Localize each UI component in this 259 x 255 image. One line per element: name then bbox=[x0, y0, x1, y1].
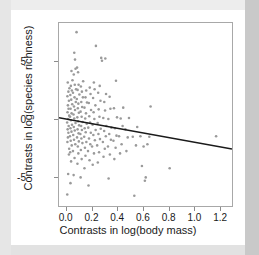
data-point bbox=[100, 57, 103, 60]
data-point bbox=[83, 127, 86, 130]
x-tick-mark bbox=[92, 207, 93, 211]
data-point bbox=[109, 153, 112, 156]
data-point bbox=[73, 96, 76, 99]
data-point bbox=[87, 184, 90, 187]
data-point bbox=[85, 141, 88, 144]
data-point bbox=[113, 158, 116, 161]
data-point bbox=[146, 143, 149, 146]
data-point bbox=[81, 142, 84, 145]
data-point bbox=[88, 159, 91, 162]
x-tick-label: 1.2 bbox=[213, 212, 227, 223]
data-points-group bbox=[66, 31, 218, 197]
data-point bbox=[66, 141, 69, 144]
figure-screenshot: 0.00.20.40.60.81.01.2 50-5 Contrasts in … bbox=[0, 0, 259, 255]
data-point bbox=[77, 145, 80, 148]
data-point bbox=[115, 134, 118, 137]
data-point bbox=[120, 143, 123, 146]
data-point bbox=[69, 115, 72, 118]
data-point bbox=[103, 130, 106, 133]
data-point bbox=[80, 125, 83, 128]
data-point bbox=[72, 73, 75, 76]
data-point bbox=[119, 152, 122, 155]
data-point bbox=[67, 125, 70, 128]
data-point bbox=[91, 164, 94, 167]
data-point bbox=[108, 95, 111, 98]
data-point bbox=[74, 122, 77, 125]
mat-top-edge bbox=[0, 0, 259, 10]
data-point bbox=[77, 152, 80, 155]
data-point bbox=[110, 138, 113, 141]
data-point bbox=[81, 129, 84, 132]
data-point bbox=[104, 109, 107, 112]
y-tick-mark bbox=[54, 119, 58, 120]
data-point bbox=[87, 102, 90, 105]
data-point bbox=[107, 177, 110, 180]
data-point bbox=[66, 81, 69, 84]
data-point bbox=[73, 157, 76, 160]
data-point bbox=[133, 194, 136, 197]
data-point bbox=[105, 135, 108, 138]
data-point bbox=[94, 104, 97, 107]
data-point bbox=[67, 173, 70, 176]
data-point bbox=[98, 151, 101, 154]
data-point bbox=[83, 136, 86, 139]
data-point bbox=[101, 59, 104, 62]
data-point bbox=[76, 136, 79, 139]
data-point bbox=[70, 70, 73, 73]
data-point bbox=[77, 107, 80, 110]
data-point bbox=[76, 89, 79, 92]
data-point bbox=[92, 134, 95, 137]
data-point bbox=[102, 156, 105, 159]
data-point bbox=[70, 144, 73, 147]
data-point bbox=[139, 135, 142, 138]
data-point bbox=[81, 106, 84, 109]
data-point bbox=[73, 83, 76, 86]
data-point bbox=[84, 154, 87, 157]
data-point bbox=[84, 96, 87, 99]
data-point bbox=[126, 136, 129, 139]
data-point bbox=[75, 31, 78, 34]
y-tick-mark bbox=[54, 61, 58, 62]
data-point bbox=[74, 143, 77, 146]
data-point bbox=[128, 117, 131, 120]
data-point bbox=[68, 153, 71, 156]
data-point bbox=[73, 105, 76, 108]
data-point bbox=[78, 140, 81, 143]
data-point bbox=[141, 165, 144, 168]
data-point bbox=[94, 139, 97, 142]
mat-bottom-edge bbox=[0, 245, 259, 255]
y-tick-mark bbox=[54, 177, 58, 178]
data-point bbox=[70, 160, 73, 163]
data-point bbox=[74, 109, 77, 112]
data-point bbox=[72, 91, 75, 94]
data-point bbox=[88, 86, 91, 89]
data-point bbox=[70, 98, 73, 101]
data-point bbox=[66, 193, 69, 196]
x-tick-label: 0.8 bbox=[162, 212, 176, 223]
data-point bbox=[77, 71, 80, 74]
x-tick-mark bbox=[194, 207, 195, 211]
data-point bbox=[93, 81, 96, 84]
data-point bbox=[83, 106, 86, 109]
data-point bbox=[73, 51, 76, 54]
x-tick-label: 1.0 bbox=[187, 212, 201, 223]
data-point bbox=[113, 107, 116, 110]
data-point bbox=[89, 143, 92, 146]
data-point bbox=[168, 167, 171, 170]
x-tick-label: 0.2 bbox=[85, 212, 99, 223]
data-point bbox=[92, 97, 95, 100]
data-point bbox=[87, 126, 90, 129]
data-point bbox=[122, 106, 125, 109]
data-point bbox=[149, 105, 152, 108]
x-tick-label: 0.0 bbox=[59, 212, 73, 223]
data-point bbox=[83, 167, 86, 170]
data-point bbox=[68, 87, 71, 90]
data-point bbox=[142, 145, 145, 148]
data-point bbox=[80, 158, 83, 161]
data-point bbox=[69, 135, 72, 138]
data-point bbox=[71, 79, 74, 82]
data-point bbox=[135, 144, 138, 147]
data-point bbox=[73, 138, 76, 141]
data-point bbox=[115, 79, 118, 82]
data-point bbox=[90, 132, 93, 135]
